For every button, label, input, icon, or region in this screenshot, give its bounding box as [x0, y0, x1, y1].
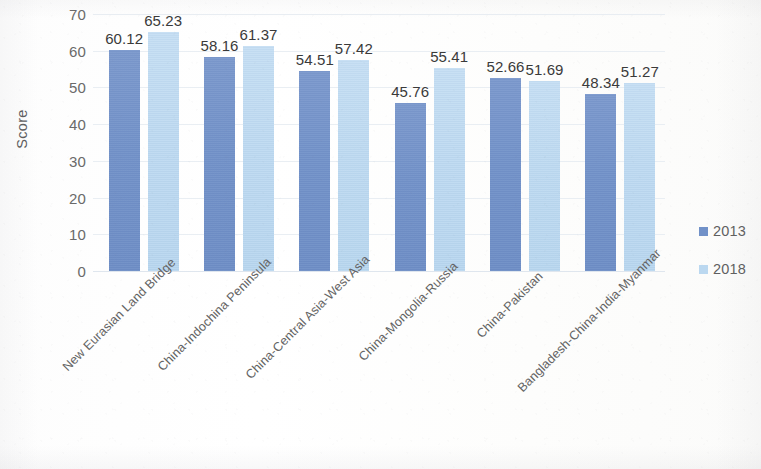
- category-label: China-Indochina Peninsula: [155, 255, 274, 374]
- legend-swatch-icon: [699, 227, 708, 236]
- legend-swatch-icon: [699, 265, 708, 274]
- category-label: New Eurasian Land Bridge: [60, 255, 178, 373]
- category-label: China-Mongolia-Russia: [356, 259, 461, 364]
- x-axis-category-labels: New Eurasian Land BridgeChina-Indochina …: [0, 0, 761, 469]
- legend-item-2013[interactable]: 2013: [699, 223, 746, 239]
- legend-label: 2018: [713, 261, 746, 277]
- grouped-bar-chart: Score 010203040506070 60.1265.2358.1661.…: [0, 0, 761, 469]
- category-label: China-Pakistan: [474, 269, 546, 341]
- legend-item-2018[interactable]: 2018: [699, 261, 746, 277]
- category-label: Bangladesh-China-India-Myanmar: [515, 246, 664, 395]
- legend-label: 2013: [713, 223, 746, 239]
